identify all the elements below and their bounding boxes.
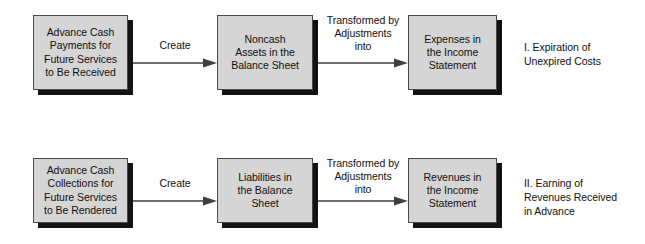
arrow-label-transformed-row1: Transformed by Adjustments into [314, 14, 412, 54]
caption-earning-of-revenues-received-in-advance: II. Earning of Revenues Received in Adva… [524, 176, 645, 218]
arrow-label-create-row1: Create [133, 39, 217, 52]
arrow-label-create-row2: Create [133, 177, 217, 190]
flow-box-label: Revenues in the Income Statement [420, 171, 486, 211]
flow-box-label: Advance Cash Payments for Future Service… [40, 26, 121, 79]
flow-box-liabilities-balance-sheet: Liabilities in the Balance Sheet [217, 158, 313, 223]
flow-box-advance-cash-payments: Advance Cash Payments for Future Service… [33, 15, 128, 90]
arrow-create-row1 [133, 58, 217, 68]
flow-box-label: Liabilities in the Balance Sheet [234, 171, 297, 211]
flow-box-label: Noncash Assets in the Balance Sheet [227, 33, 303, 73]
flow-box-label: Expenses in the Income Statement [420, 33, 485, 73]
diagram-canvas: Advance Cash Payments for Future Service… [0, 0, 645, 244]
arrow-transformed-row1 [318, 58, 408, 68]
flow-box-label: Advance Cash Collections for Future Serv… [40, 164, 121, 217]
caption-expiration-of-unexpired-costs: I. Expiration of Unexpired Costs [524, 40, 642, 68]
flow-box-expenses-income-statement: Expenses in the Income Statement [408, 15, 497, 90]
arrow-label-transformed-row2: Transformed by Adjustments into [314, 157, 412, 197]
flow-box-noncash-assets: Noncash Assets in the Balance Sheet [217, 15, 313, 90]
flow-box-revenues-income-statement: Revenues in the Income Statement [408, 158, 497, 223]
arrow-transformed-row2 [318, 196, 408, 206]
flow-box-advance-cash-collections: Advance Cash Collections for Future Serv… [33, 158, 128, 223]
arrow-create-row2 [133, 196, 217, 206]
